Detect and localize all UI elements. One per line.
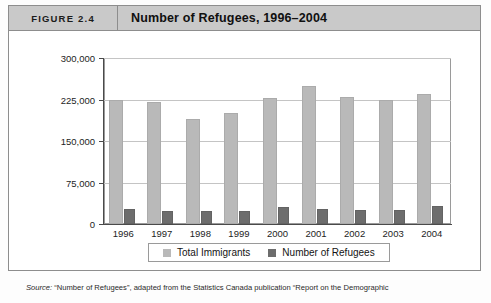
bar-group [181,58,220,224]
bar-total-immigrants [417,94,431,224]
bar-group [220,58,259,224]
bar-number-of-refugees [278,207,289,224]
x-axis-tick-label: 2004 [421,228,442,239]
bar-group [374,58,413,224]
plot-region: 075,000150,000225,000300,000 19961997199… [104,58,451,250]
bar-series-container [104,58,451,224]
figure-page: FIGURE 2.4 Number of Refugees, 1996–2004… [0,0,491,303]
x-axis-tick-label: 1998 [190,228,211,239]
y-axis-tick-label: 300,000 [61,53,95,64]
bar-total-immigrants [340,97,354,224]
bar-total-immigrants [109,100,123,225]
y-axis-tick [99,224,104,225]
figure-title: Number of Refugees, 1996–2004 [118,6,480,30]
bar-total-immigrants [263,98,277,224]
bar-number-of-refugees [394,210,405,224]
source-note: Source: “Number of Refugees”, adapted fr… [26,283,481,293]
y-axis-tick-label: 75,000 [66,177,95,188]
figure-number-label: FIGURE 2.4 [9,6,118,30]
y-axis-tick-label: 225,000 [61,94,95,105]
bar-number-of-refugees [432,206,443,224]
bar-group [335,58,374,224]
legend-swatch-icon-total-immigrants [163,249,171,257]
figure-header: FIGURE 2.4 Number of Refugees, 1996–2004 [9,6,480,31]
bar-number-of-refugees [124,209,135,224]
bar-number-of-refugees [239,211,250,224]
bar-total-immigrants [379,100,393,224]
x-axis-line [103,224,452,225]
y-axis-tick-label: 0 [90,219,95,230]
legend-label-number-of-refugees: Number of Refugees [282,247,374,258]
chart-area: 075,000150,000225,000300,000 19961997199… [9,31,480,271]
source-note-text: “Number of Refugees”, adapted from the S… [52,283,388,292]
legend-item-total-immigrants: Total Immigrants [163,247,250,258]
source-note-label: Source: [26,283,52,292]
x-axis-tick-label: 2001 [305,228,326,239]
bar-total-immigrants [224,113,238,224]
x-axis-tick-label: 1996 [113,228,134,239]
legend-item-number-of-refugees: Number of Refugees [268,247,374,258]
bar-number-of-refugees [317,209,328,224]
figure-container: FIGURE 2.4 Number of Refugees, 1996–2004… [8,5,481,271]
x-axis-tick-label: 2002 [344,228,365,239]
bar-group [297,58,336,224]
bar-group [104,58,143,224]
bar-group [143,58,182,224]
bar-number-of-refugees [201,211,212,224]
y-axis-tick-label: 150,000 [61,136,95,147]
x-axis-tick-label: 1999 [228,228,249,239]
x-axis-tick-label: 2000 [267,228,288,239]
chart-legend: Total Immigrants Number of Refugees [148,243,390,262]
x-axis-tick-label: 2003 [383,228,404,239]
bar-group [412,58,451,224]
bar-total-immigrants [302,86,316,224]
bar-number-of-refugees [355,210,366,224]
x-axis-tick-label: 1997 [151,228,172,239]
legend-label-total-immigrants: Total Immigrants [177,247,250,258]
bar-group [258,58,297,224]
bar-number-of-refugees [162,211,173,224]
bar-total-immigrants [186,119,200,224]
legend-swatch-icon-number-of-refugees [268,249,276,257]
bar-total-immigrants [147,102,161,224]
